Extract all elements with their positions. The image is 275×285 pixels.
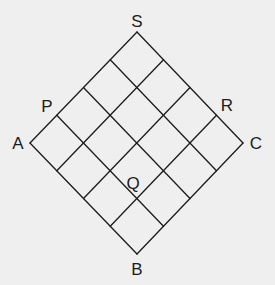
label-q: Q: [126, 174, 139, 193]
label-r: R: [221, 96, 233, 115]
label-s: S: [131, 12, 142, 31]
grid-lines: [30, 32, 243, 254]
label-a: A: [12, 134, 24, 153]
label-c: C: [250, 134, 262, 153]
vertex-labels: SACBPRQ: [12, 12, 262, 279]
label-b: B: [131, 260, 142, 279]
label-p: P: [41, 97, 52, 116]
diamond-grid-diagram: SACBPRQ: [0, 0, 275, 285]
